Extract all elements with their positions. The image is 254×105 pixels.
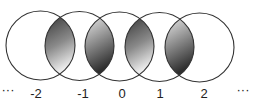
overlapping-circles-diagram: ···-2-1012··· xyxy=(0,0,254,105)
lens-shaded-region xyxy=(45,17,75,74)
axis-labels: ···-2-1012··· xyxy=(2,82,250,101)
ellipsis-label: ··· xyxy=(2,82,15,97)
index-label: -2 xyxy=(30,86,42,101)
lens-shaded-region xyxy=(165,19,194,75)
index-label: 2 xyxy=(200,86,207,101)
lens-shaded-region xyxy=(125,19,154,75)
circles xyxy=(6,11,234,82)
ellipsis-label: ··· xyxy=(237,82,250,97)
index-label: 1 xyxy=(156,86,163,101)
index-label: 0 xyxy=(118,86,125,101)
index-label: -1 xyxy=(77,86,89,101)
lens-shaded-region xyxy=(85,18,114,74)
